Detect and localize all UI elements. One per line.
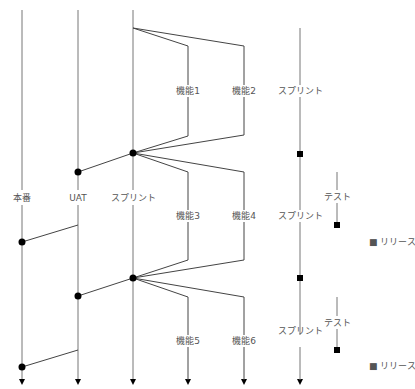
release-label-1: ■ リリース bbox=[369, 237, 415, 247]
lane-label-uat: UAT bbox=[69, 193, 87, 203]
feature-label-6: 機能6 bbox=[232, 335, 256, 346]
feature-label-3: 機能3 bbox=[176, 210, 200, 221]
sprint-label-3: スプリント bbox=[278, 326, 323, 336]
git-flow-diagram: 本番 UAT スプリント 機能1 機能2 機能3 機能4 機能5 機能6 スプリ… bbox=[0, 0, 415, 389]
feature-label-1: 機能1 bbox=[176, 85, 200, 96]
release-label-2: ■ リリース bbox=[369, 361, 415, 371]
feature-label-5: 機能5 bbox=[176, 335, 200, 346]
test-label-1: テスト bbox=[324, 192, 351, 202]
sprint-label-1: スプリント bbox=[278, 86, 323, 96]
lane-label-sprint: スプリント bbox=[111, 193, 156, 203]
lane-label-prod: 本番 bbox=[13, 192, 31, 203]
test-label-2: テスト bbox=[324, 318, 351, 328]
feature-branches-5-6 bbox=[133, 278, 244, 380]
arrowheads bbox=[19, 379, 303, 385]
sprint-label-2: スプリント bbox=[278, 211, 323, 221]
feature-label-2: 機能2 bbox=[232, 85, 256, 96]
feature-label-4: 機能4 bbox=[232, 210, 256, 221]
